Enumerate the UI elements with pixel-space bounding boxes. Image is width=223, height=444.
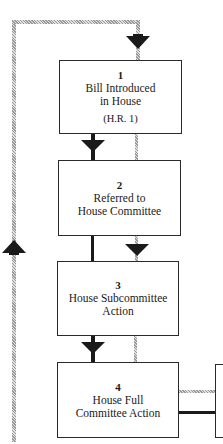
arrow-down-icon xyxy=(125,244,149,257)
gray-connector-3-4 xyxy=(134,336,137,362)
step-label: Referred to xyxy=(93,192,145,205)
step-label: House Full xyxy=(93,394,144,407)
step-label: Bill Introduced xyxy=(86,82,156,95)
step-number: 4 xyxy=(115,381,121,394)
step-number: 1 xyxy=(118,69,124,82)
step-3-subcommittee-action: 3 House Subcommittee Action xyxy=(57,261,179,336)
step-label: Action xyxy=(102,305,133,318)
step-label: House Committee xyxy=(78,205,161,218)
step-1-bill-introduced: 1 Bill Introduced in House (H.R. 1) xyxy=(59,60,182,134)
step-number: 3 xyxy=(115,279,121,292)
step-label: in House xyxy=(100,95,141,108)
step-number: 2 xyxy=(117,179,123,192)
arrow-down-icon xyxy=(81,140,105,153)
step-label: Committee Action xyxy=(76,407,161,420)
black-connector-4-next xyxy=(179,411,216,414)
arrow-up-icon xyxy=(2,240,26,254)
black-connector-2-3 xyxy=(91,236,94,262)
arrow-down-icon xyxy=(126,36,150,50)
gray-loop-left-vertical xyxy=(12,20,16,442)
gray-connector-4-next xyxy=(179,390,216,393)
step-sublabel: (H.R. 1) xyxy=(103,112,138,125)
gray-connector-1-2 xyxy=(135,134,138,160)
gray-loop-top-horizontal xyxy=(12,20,140,24)
next-step-box-cropped xyxy=(215,364,223,438)
step-label: House Subcommittee xyxy=(69,292,168,305)
step-2-referred-to-committee: 2 Referred to House Committee xyxy=(58,160,181,236)
arrow-down-icon xyxy=(81,342,105,355)
step-4-full-committee-action: 4 House Full Committee Action xyxy=(57,362,179,438)
